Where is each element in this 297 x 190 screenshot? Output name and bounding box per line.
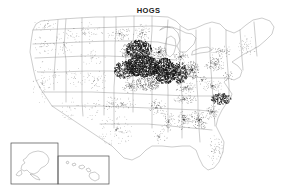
state-boundary-layer (30, 16, 274, 170)
state-line-v2 (64, 19, 66, 102)
map-canvas-wrapper (0, 0, 297, 190)
state-line-h5 (44, 92, 230, 96)
lake-erie-ontario (192, 47, 212, 55)
hawaii-inset-frame (58, 156, 109, 184)
state-line-h6 (52, 106, 218, 112)
alaska-outline (16, 151, 49, 180)
inset-layer (11, 143, 109, 184)
state-line-v1 (54, 20, 58, 90)
state-line-h1 (33, 26, 170, 30)
hawaii-outline (66, 161, 99, 181)
state-line-v14 (254, 22, 257, 56)
state-line-v13 (240, 30, 243, 70)
hogs-dot-density-map-figure: HOGS (0, 0, 297, 190)
state-line-v12 (226, 30, 229, 98)
us-map-svg (0, 0, 297, 190)
